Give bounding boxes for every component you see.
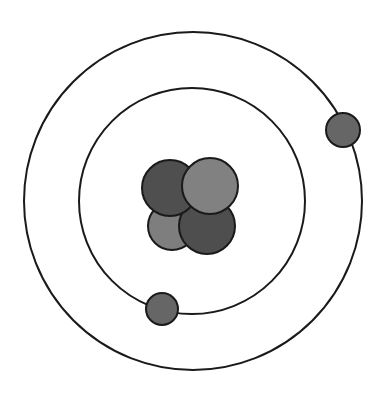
atom-diagram: [0, 0, 385, 394]
electron-inner: [146, 293, 178, 325]
electron-outer: [326, 113, 360, 147]
nucleon-top-right: [182, 158, 238, 214]
nucleus-group: [142, 158, 238, 254]
atom-model-canvas: [0, 0, 385, 394]
